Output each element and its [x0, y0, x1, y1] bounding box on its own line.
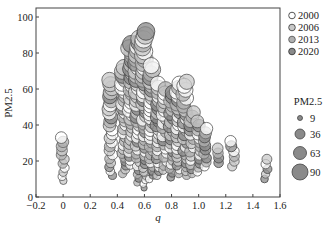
- size-legend-bubble-icon: [298, 116, 303, 121]
- legend-year-label: 2013: [298, 34, 319, 45]
- x-axis-label: q: [155, 211, 161, 223]
- x-tick-label: 0.8: [165, 200, 178, 211]
- data-bubble: [143, 58, 159, 74]
- size-legend-bubble-icon: [295, 129, 305, 139]
- x-tick-label: 1.2: [219, 200, 232, 211]
- data-bubble: [200, 122, 212, 134]
- legend-marker-icon: [289, 36, 296, 43]
- y-axis-label: PM2.5: [2, 88, 14, 118]
- size-legend-bubble-icon: [294, 147, 307, 160]
- x-tick-label: 0.6: [138, 200, 151, 211]
- legend-year-label: 2000: [298, 10, 319, 21]
- legend-marker-icon: [289, 24, 296, 31]
- data-bubble: [55, 132, 67, 144]
- y-tick-label: 20: [23, 156, 34, 167]
- y-tick-label: 0: [28, 192, 33, 203]
- size-legend-label: 63: [310, 148, 321, 159]
- x-tick-label: 0: [60, 200, 65, 211]
- year-legend: 2000200620132020: [289, 10, 319, 57]
- data-bubble: [212, 143, 223, 154]
- size-legend-label: 36: [310, 129, 321, 140]
- data-bubble: [225, 135, 236, 146]
- size-legend-bubble-icon: [292, 164, 308, 180]
- legend-year-label: 2020: [298, 46, 319, 57]
- size-legend-title: PM2.5: [294, 96, 322, 107]
- legend-marker-icon: [289, 12, 296, 19]
- x-tick-label: 0.2: [84, 200, 97, 211]
- data-bubble: [137, 23, 155, 41]
- y-tick-label: 100: [17, 12, 33, 23]
- size-legend-label: 90: [310, 167, 321, 178]
- plot-area: [55, 23, 271, 192]
- bubble-chart: −0.200.20.40.60.81.01.21.41.6 0204060801…: [0, 0, 328, 227]
- y-tick-label: 80: [23, 48, 34, 59]
- x-tick-label: 1.6: [273, 200, 286, 211]
- x-tick-label: 1.4: [246, 200, 260, 211]
- y-tick-label: 40: [23, 120, 34, 131]
- x-tick-label: 1.0: [192, 200, 205, 211]
- y-tick-label: 60: [23, 84, 34, 95]
- size-legend-label: 9: [310, 113, 315, 124]
- legend-marker-icon: [289, 48, 296, 55]
- data-bubble: [179, 74, 194, 89]
- legend-year-label: 2006: [298, 22, 319, 33]
- x-tick-label: 0.4: [111, 200, 125, 211]
- size-legend: PM2.59366390: [292, 96, 322, 180]
- data-bubble: [262, 154, 272, 164]
